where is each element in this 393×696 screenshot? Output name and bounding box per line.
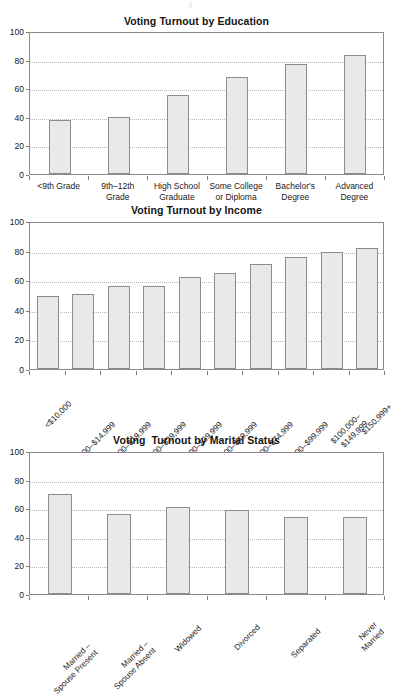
y-axis-tick-label: 80	[0, 56, 24, 66]
y-axis-tick-label: 20	[0, 561, 24, 571]
y-axis-tick-label: 80	[0, 247, 24, 257]
bar	[72, 294, 94, 369]
bar	[284, 517, 308, 594]
plot-area-marital	[29, 452, 384, 595]
bar	[108, 286, 130, 369]
bar	[143, 286, 165, 369]
x-axis-tick-mark	[266, 176, 267, 180]
x-axis-tick-mark	[147, 176, 148, 180]
chart-title-education: Voting Turnout by Education	[0, 15, 393, 27]
y-axis-tick-mark	[26, 340, 29, 341]
chart-panel-income: Voting Turnout by Income 020406080100<$1…	[0, 200, 393, 430]
bar	[49, 120, 71, 174]
x-axis-tick-mark	[88, 176, 89, 180]
x-axis-tick-label: Bachelor's Degree	[266, 181, 325, 202]
y-axis-tick-mark	[26, 252, 29, 253]
plot-area-education	[29, 32, 384, 175]
y-axis-tick-mark	[26, 452, 29, 453]
plot-area-income	[29, 222, 384, 370]
bar	[166, 507, 190, 594]
x-axis-tick-mark	[384, 176, 385, 180]
x-axis-tick-mark	[207, 596, 208, 600]
y-axis-tick-mark	[26, 118, 29, 119]
y-axis-tick-label: 40	[0, 113, 24, 123]
x-axis-tick-mark	[136, 371, 137, 375]
bar	[226, 77, 248, 174]
bar	[179, 277, 201, 369]
x-axis-tick-mark	[88, 596, 89, 600]
y-axis-tick-label: 0	[0, 365, 24, 375]
y-axis-tick-label: 60	[0, 504, 24, 514]
x-axis-tick-label: Advanced Degree	[325, 181, 384, 202]
chart-panel-marital: Voting Turnout by Marital Status 0204060…	[0, 430, 393, 661]
x-axis-tick-label: High School Graduate	[147, 181, 206, 202]
chart-title-income: Voting Turnout by Income	[0, 204, 393, 216]
bars-education	[30, 33, 383, 174]
bar	[37, 296, 59, 369]
bar	[285, 257, 307, 369]
y-axis-tick-label: 100	[0, 27, 24, 37]
x-axis-tick-mark	[384, 596, 385, 600]
y-axis-tick-mark	[26, 566, 29, 567]
y-axis-tick-mark	[26, 311, 29, 312]
x-axis-tick-mark	[171, 371, 172, 375]
x-axis-tick-mark	[278, 371, 279, 375]
x-axis-tick-label: Never Married	[353, 620, 387, 654]
x-axis-tick-label: Widowed	[173, 624, 204, 655]
x-axis-tick-label: Married – Spouse Present	[44, 641, 99, 696]
bar	[107, 514, 131, 594]
x-axis-tick-label: 9th–12th Grade	[88, 181, 147, 202]
y-axis-tick-label: 0	[0, 170, 24, 180]
bar	[214, 273, 236, 369]
bar	[285, 64, 307, 174]
y-axis-tick-mark	[26, 538, 29, 539]
x-axis-tick-mark	[29, 176, 30, 180]
x-axis-tick-mark	[325, 596, 326, 600]
x-axis-tick-mark	[65, 371, 66, 375]
y-axis-tick-label: 100	[0, 217, 24, 227]
y-axis-tick-mark	[26, 146, 29, 147]
x-axis-tick-mark	[325, 176, 326, 180]
x-axis-tick-mark	[100, 371, 101, 375]
bars-income	[30, 223, 383, 369]
y-axis-tick-label: 20	[0, 141, 24, 151]
x-axis-tick-mark	[147, 596, 148, 600]
x-axis-tick-label: Married – Spouse Absent	[105, 639, 157, 691]
y-axis-tick-label: 60	[0, 276, 24, 286]
bars-marital	[30, 453, 383, 594]
y-axis-tick-mark	[26, 61, 29, 62]
bar	[167, 95, 189, 174]
bar	[250, 264, 272, 369]
x-axis-tick-mark	[266, 596, 267, 600]
y-axis-tick-label: 80	[0, 476, 24, 486]
x-axis-tick-label: <$10,000	[43, 399, 74, 430]
bar	[48, 494, 72, 594]
y-axis-tick-label: 20	[0, 335, 24, 345]
x-axis-tick-label: <9th Grade	[29, 181, 88, 192]
y-axis-tick-mark	[26, 509, 29, 510]
x-axis-tick-mark	[207, 176, 208, 180]
y-axis-tick-label: 60	[0, 84, 24, 94]
y-axis-tick-label: 100	[0, 447, 24, 457]
y-axis-tick-label: 40	[0, 306, 24, 316]
x-axis-tick-label: Separated	[290, 627, 323, 660]
chart-title-marital: Voting Turnout by Marital Status	[0, 434, 393, 446]
bar	[344, 55, 366, 174]
y-axis-tick-label: 40	[0, 533, 24, 543]
x-axis-tick-label: Some College or Diploma	[207, 181, 266, 202]
bar	[343, 517, 367, 594]
x-axis-tick-mark	[313, 371, 314, 375]
y-axis-tick-mark	[26, 89, 29, 90]
y-axis-tick-mark	[26, 222, 29, 223]
y-axis-tick-label: 0	[0, 590, 24, 600]
x-axis-tick-mark	[29, 371, 30, 375]
x-axis-tick-label: Divorced	[233, 623, 263, 653]
y-axis-tick-mark	[26, 281, 29, 282]
x-axis-tick-mark	[29, 596, 30, 600]
x-axis-tick-mark	[242, 371, 243, 375]
bar	[356, 248, 378, 369]
bar	[108, 117, 130, 174]
x-axis-tick-mark	[349, 371, 350, 375]
x-axis-tick-mark	[384, 371, 385, 375]
